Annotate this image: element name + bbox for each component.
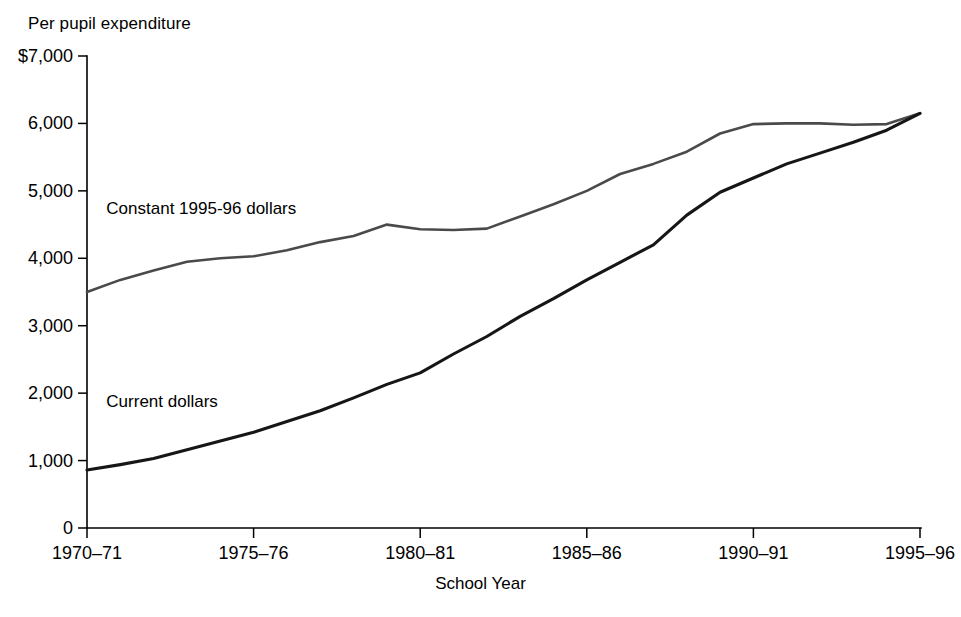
chart-container: Per pupil expenditure $7,0006,0005,0004,… <box>0 0 961 617</box>
y-tick-label: 2,000 <box>28 383 73 403</box>
series-line-current-dollars <box>87 113 920 470</box>
x-tick-label: 1985–86 <box>552 543 622 563</box>
x-tick-label: 1980–81 <box>385 543 455 563</box>
y-tick-label: 1,000 <box>28 451 73 471</box>
y-tick-label: $7,000 <box>18 46 73 66</box>
y-axis: $7,0006,0005,0004,0003,0002,0001,0000 <box>18 46 87 538</box>
y-tick-label: 5,000 <box>28 181 73 201</box>
x-tick-label: 1995–96 <box>885 543 955 563</box>
x-tick-label: 1975–76 <box>219 543 289 563</box>
y-axis-ticks: $7,0006,0005,0004,0003,0002,0001,0000 <box>18 46 87 538</box>
x-axis-title: School Year <box>0 574 961 594</box>
series-label: Current dollars <box>106 392 218 411</box>
series-annotations: Constant 1995-96 dollarsCurrent dollars <box>106 199 296 410</box>
series-label: Constant 1995-96 dollars <box>106 199 296 218</box>
x-tick-label: 1970–71 <box>52 543 122 563</box>
x-tick-label: 1990–91 <box>718 543 788 563</box>
line-chart-plot: $7,0006,0005,0004,0003,0002,0001,0000 19… <box>0 0 961 617</box>
x-axis-ticks: 1970–711975–761980–811985–861990–911995–… <box>52 528 955 563</box>
y-tick-label: 0 <box>63 518 73 538</box>
y-tick-label: 6,000 <box>28 113 73 133</box>
series-group <box>87 113 920 470</box>
y-tick-label: 4,000 <box>28 248 73 268</box>
x-axis: 1970–711975–761980–811985–861990–911995–… <box>52 528 955 563</box>
y-tick-label: 3,000 <box>28 316 73 336</box>
